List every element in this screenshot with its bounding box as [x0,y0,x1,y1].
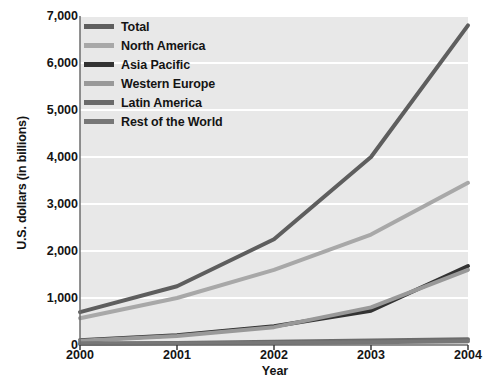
legend-label: Total [121,20,149,34]
y-tick-label: 7,000 [26,9,78,23]
legend-item-latin-america[interactable]: Latin America [84,94,223,111]
y-tick-label: 4,000 [26,150,78,164]
legend-swatch-icon [84,100,114,105]
y-axis-tick-labels: 01,0002,0003,0004,0005,0006,0007,000 [20,0,78,382]
x-tick-label: 2003 [341,348,401,362]
y-tick-label: 6,000 [26,56,78,70]
legend-item-asia-pacific[interactable]: Asia Pacific [84,56,223,73]
legend: TotalNorth AmericaAsia PacificWestern Eu… [84,18,223,130]
x-tick-label: 2002 [244,348,304,362]
legend-item-north-america[interactable]: North America [84,37,223,54]
legend-label: Asia Pacific [121,58,190,72]
x-tick-label: 2000 [50,348,110,362]
legend-label: Rest of the World [121,115,223,129]
y-tick-label: 2,000 [26,244,78,258]
legend-swatch-icon [84,24,114,29]
x-tick-label: 2004 [438,348,487,362]
y-tick-label: 1,000 [26,291,78,305]
legend-item-total[interactable]: Total [84,18,223,35]
x-tick-label: 2001 [147,348,207,362]
legend-label: Latin America [121,96,202,110]
legend-label: North America [121,39,205,53]
legend-swatch-icon [84,119,114,124]
legend-swatch-icon [84,43,114,48]
y-tick-label: 5,000 [26,103,78,117]
legend-swatch-icon [84,81,114,86]
y-tick-label: 3,000 [26,197,78,211]
legend-swatch-icon [84,62,114,67]
legend-item-rest-of-the-world[interactable]: Rest of the World [84,113,223,130]
x-axis-title: Year [80,364,470,378]
legend-label: Western Europe [121,77,215,91]
legend-item-western-europe[interactable]: Western Europe [84,75,223,92]
